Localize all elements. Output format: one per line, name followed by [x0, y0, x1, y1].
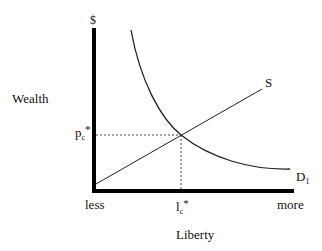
y-axis-label: Wealth: [12, 92, 49, 105]
x-min-label: less: [85, 198, 105, 211]
supply-label: S: [265, 76, 272, 89]
price-eq-star: *: [85, 123, 91, 135]
supply-curve: [96, 89, 262, 184]
liberty-equilibrium-label: lc*: [176, 198, 189, 216]
demand-label: D1: [296, 170, 309, 186]
supply-demand-diagram: [0, 0, 322, 251]
y-axis-unit-label: $: [90, 14, 96, 26]
x-max-label: more: [277, 198, 304, 211]
liberty-eq-star: *: [183, 197, 189, 209]
demand-label-text: D: [296, 169, 305, 184]
price-equilibrium-label: pc*: [75, 124, 91, 142]
x-axis-label: Liberty: [176, 228, 214, 241]
demand-label-subscript: 1: [305, 177, 309, 186]
demand-curve: [131, 30, 290, 169]
